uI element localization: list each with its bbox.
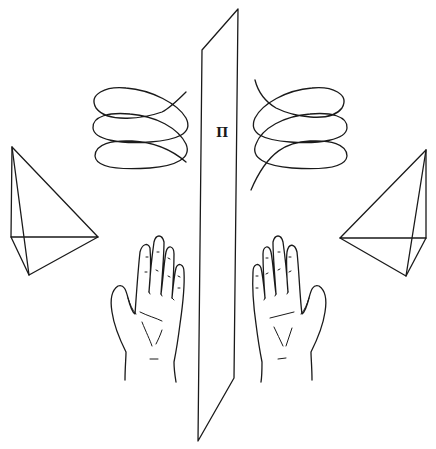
mirror-plane-outline: [198, 9, 238, 441]
right-pyramid: [340, 150, 426, 276]
right-hand: [253, 236, 326, 382]
mirror-symmetry-diagram: Π: [0, 0, 436, 449]
left-helix: [93, 88, 188, 169]
left-helix-curve: [93, 88, 188, 169]
right-hand-outline: [253, 236, 326, 382]
right-helix-curve: [251, 80, 347, 190]
mirror-plane-label: Π: [216, 125, 228, 140]
left-hand: [111, 236, 184, 382]
left-hand-outline: [111, 236, 184, 382]
mirror-plane: Π: [198, 9, 238, 441]
right-helix: [251, 80, 347, 190]
left-pyramid: [11, 147, 98, 275]
